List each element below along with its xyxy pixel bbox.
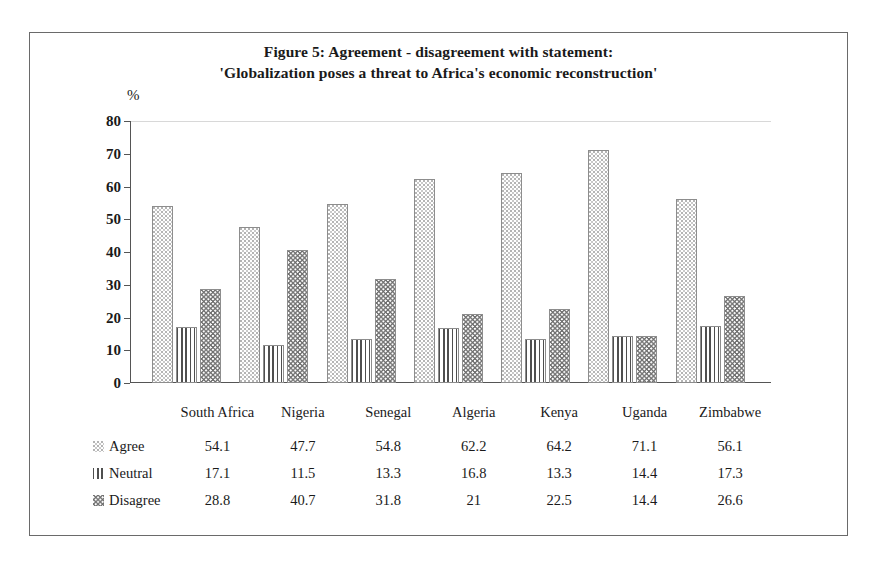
bar-agree [152, 206, 173, 383]
bar-neutral [700, 326, 721, 383]
table-row: Neutral17.111.513.316.813.314.417.3 [89, 460, 773, 487]
table-cell: 31.8 [346, 487, 431, 514]
y-axis-tick-label: 30 [106, 276, 121, 293]
bar-group [327, 121, 414, 383]
table-cell: 13.3 [516, 460, 601, 487]
table-cell: 14.4 [602, 460, 687, 487]
table-header-country: Kenya [516, 391, 601, 433]
table-cell: 17.1 [175, 460, 260, 487]
bar-disagree [549, 309, 570, 383]
figure-title: Figure 5: Agreement - disagreement with … [30, 41, 847, 83]
figure-frame: Figure 5: Agreement - disagreement with … [29, 32, 848, 536]
bar-agree [414, 179, 435, 383]
table-cell: 16.8 [431, 460, 516, 487]
table-cell: 21 [431, 487, 516, 514]
figure-title-line-1: Figure 5: Agreement - disagreement with … [30, 41, 847, 62]
y-axis-tick-label: 20 [106, 309, 121, 326]
y-axis-tick-label: 50 [106, 211, 121, 228]
bar-disagree [200, 289, 221, 383]
table-cell: 28.8 [175, 487, 260, 514]
table-header-country: Zimbabwe [687, 391, 773, 433]
y-axis-tick [124, 383, 130, 384]
y-axis-tick [124, 318, 130, 319]
table-cell: 62.2 [431, 433, 516, 460]
table-cell: 26.6 [687, 487, 773, 514]
chart-plot-inner: 01020304050607080 [130, 121, 771, 383]
table-header-country: South Africa [175, 391, 260, 433]
bar-agree [327, 204, 348, 383]
table-cell: 17.3 [687, 460, 773, 487]
table-header-country: Uganda [602, 391, 687, 433]
y-axis-tick-label: 70 [106, 145, 121, 162]
bar-group [152, 121, 239, 383]
legend-swatch-agree-icon [93, 441, 104, 452]
bar-neutral [612, 336, 633, 383]
bar-agree [501, 173, 522, 383]
table-cell: 40.7 [260, 487, 345, 514]
bar-neutral [176, 327, 197, 383]
bar-disagree [724, 296, 745, 383]
y-axis-tick [124, 154, 130, 155]
data-table-body: South AfricaNigeriaSenegalAlgeriaKenyaUg… [89, 391, 773, 514]
legend-item-neutral: Neutral [89, 460, 175, 487]
y-axis-tick-label: 80 [106, 113, 121, 130]
legend-item-agree: Agree [89, 433, 175, 460]
table-row: Agree54.147.754.862.264.271.156.1 [89, 433, 773, 460]
legend-label: Disagree [109, 492, 161, 508]
table-header-country: Senegal [346, 391, 431, 433]
table-cell: 54.8 [346, 433, 431, 460]
bar-neutral [438, 328, 459, 383]
table-cell: 11.5 [260, 460, 345, 487]
table-row: Disagree28.840.731.82122.514.426.6 [89, 487, 773, 514]
data-table: South AfricaNigeriaSenegalAlgeriaKenyaUg… [89, 391, 773, 514]
table-header-country: Algeria [431, 391, 516, 433]
bar-group [676, 121, 763, 383]
table-header-country: Nigeria [260, 391, 345, 433]
y-axis-tick-label: 10 [106, 342, 121, 359]
figure-title-line-2: 'Globalization poses a threat to Africa'… [30, 62, 847, 83]
table-cell: 64.2 [516, 433, 601, 460]
bar-group [414, 121, 501, 383]
y-axis-tick [124, 285, 130, 286]
table-header-row: South AfricaNigeriaSenegalAlgeriaKenyaUg… [89, 391, 773, 433]
table-cell: 22.5 [516, 487, 601, 514]
bar-agree [676, 199, 697, 383]
chart-plot-area: 01020304050607080 [130, 113, 771, 391]
legend-label: Agree [109, 438, 144, 454]
table-cell: 47.7 [260, 433, 345, 460]
y-axis-tick [124, 252, 130, 253]
y-axis-tick-label: 40 [106, 244, 121, 261]
bar-disagree [636, 336, 657, 383]
y-axis-tick [124, 219, 130, 220]
legend-swatch-neutral-icon [93, 468, 104, 479]
table-cell: 71.1 [602, 433, 687, 460]
y-axis-tick [124, 350, 130, 351]
bar-agree [588, 150, 609, 383]
legend-swatch-disagree-icon [93, 495, 104, 506]
bar-neutral [263, 345, 284, 383]
y-axis-unit-label: % [127, 87, 140, 104]
bar-agree [239, 227, 260, 383]
bar-neutral [525, 339, 546, 383]
table-cell: 14.4 [602, 487, 687, 514]
bar-disagree [375, 279, 396, 383]
table-cell: 54.1 [175, 433, 260, 460]
legend-label: Neutral [109, 465, 152, 481]
y-axis-tick [124, 121, 130, 122]
bar-group [501, 121, 588, 383]
y-axis-tick-label: 0 [114, 375, 122, 392]
table-cell: 56.1 [687, 433, 773, 460]
table-cell: 13.3 [346, 460, 431, 487]
bar-neutral [351, 339, 372, 383]
bar-group [588, 121, 675, 383]
bar-disagree [287, 250, 308, 383]
y-axis-tick [124, 187, 130, 188]
y-axis-tick-label: 60 [106, 178, 121, 195]
table-header-corner [89, 391, 175, 433]
bar-group [239, 121, 326, 383]
legend-item-disagree: Disagree [89, 487, 175, 514]
y-axis-line [130, 121, 131, 383]
bar-disagree [462, 314, 483, 383]
